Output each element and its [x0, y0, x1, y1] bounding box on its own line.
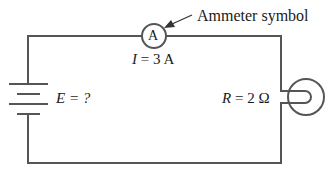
current-value: = 3 A [137, 51, 174, 67]
wire-top-left [28, 36, 142, 84]
wire-top-right [166, 36, 292, 91]
battery-icon [9, 84, 48, 114]
current-label: I = 3 A [132, 52, 174, 67]
emf-value: = ? [65, 90, 90, 106]
annotation-arrow [172, 15, 192, 24]
emf-label: E = ? [56, 91, 90, 106]
emf-variable: E [56, 90, 65, 106]
circuit-drawing [0, 0, 334, 173]
resistance-variable: R [222, 90, 231, 106]
wire-bottom [28, 103, 292, 163]
ammeter-symbol-letter: A [148, 29, 158, 43]
lightbulb-icon [288, 79, 324, 115]
resistance-label: R = 2 Ω [222, 91, 270, 106]
resistance-value: = 2 Ω [231, 90, 269, 106]
circuit-diagram: A Ammeter symbol I = 3 A E = ? R = 2 Ω [0, 0, 334, 173]
annotation-label: Ammeter symbol [197, 8, 309, 24]
